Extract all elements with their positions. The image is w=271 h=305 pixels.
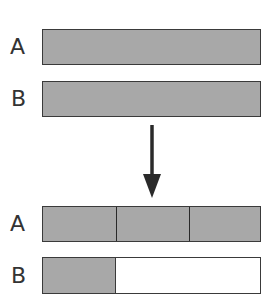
- segment-divider: [116, 207, 117, 241]
- row-label-b-after: B: [11, 265, 26, 287]
- row-label-a-before: A: [10, 36, 25, 58]
- row-label-a-after: A: [10, 213, 25, 235]
- bar-a-after: [42, 206, 261, 242]
- bar-b-before: [42, 81, 261, 117]
- segment-divider: [189, 207, 190, 241]
- filled-segment: [43, 258, 116, 293]
- row-label-b-before: B: [11, 88, 26, 110]
- down-arrow-icon: [132, 122, 172, 202]
- bar-b-after: [42, 257, 261, 294]
- bar-a-before: [42, 29, 261, 65]
